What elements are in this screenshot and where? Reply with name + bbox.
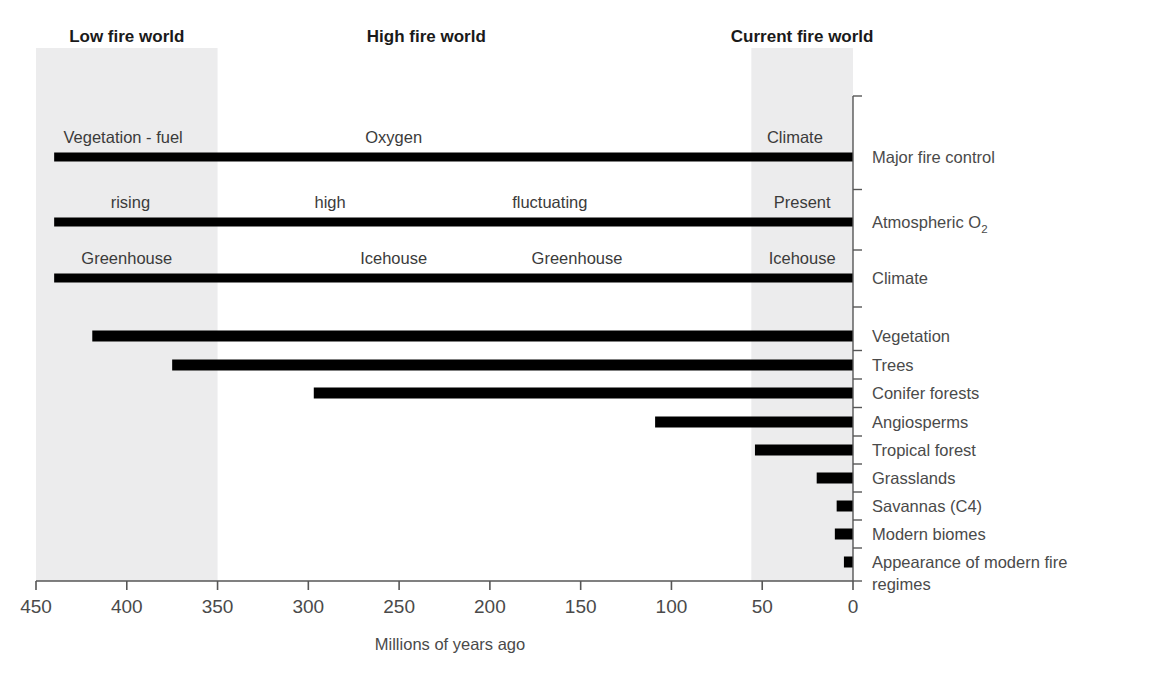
x-axis-tick-label: 250 xyxy=(383,596,415,617)
segment-label: rising xyxy=(111,193,150,211)
timeline-bar xyxy=(172,360,853,371)
timeline-bar xyxy=(755,445,853,456)
x-axis-title: Millions of years ago xyxy=(375,635,525,653)
timeline-bar xyxy=(314,388,853,399)
timeline-bar xyxy=(835,529,853,540)
row-label: Vegetation xyxy=(872,327,950,345)
era-header-0: Low fire world xyxy=(69,27,184,46)
row-label: Grasslands xyxy=(872,469,955,487)
row-label: Savannas (C4) xyxy=(872,497,982,515)
x-axis-tick-label: 350 xyxy=(202,596,234,617)
timeline-bar xyxy=(54,153,853,162)
timeline-bar xyxy=(54,218,853,227)
x-axis-tick-label: 0 xyxy=(848,596,859,617)
segment-label: Climate xyxy=(767,128,823,146)
row-label-subscript: 2 xyxy=(981,223,987,235)
timeline-bar xyxy=(92,331,853,342)
era-header-1: High fire world xyxy=(367,27,486,46)
row-label: Climate xyxy=(872,269,928,287)
segment-label: Icehouse xyxy=(360,249,427,267)
row-label: Tropical forest xyxy=(872,441,976,459)
row-label-continuation: regimes xyxy=(872,575,931,593)
segment-label: high xyxy=(315,193,346,211)
segment-label: Greenhouse xyxy=(532,249,623,267)
row-label: Modern biomes xyxy=(872,525,986,543)
x-axis-tick-label: 450 xyxy=(20,596,52,617)
row-label: Appearance of modern fire xyxy=(872,553,1067,571)
timeline-bar xyxy=(844,557,853,568)
segment-label: Icehouse xyxy=(769,249,836,267)
timeline-bar xyxy=(837,501,853,512)
x-axis-tick-label: 50 xyxy=(752,596,773,617)
row-label: Angiosperms xyxy=(872,413,968,431)
x-axis-tick-label: 150 xyxy=(565,596,597,617)
segment-label: Oxygen xyxy=(365,128,422,146)
timeline-bar xyxy=(817,473,853,484)
x-axis-tick-label: 100 xyxy=(656,596,688,617)
timeline-chart: Low fire worldHigh fire worldCurrent fir… xyxy=(0,0,1150,681)
x-axis-tick-label: 400 xyxy=(111,596,143,617)
fire-world-timeline-figure: Low fire worldHigh fire worldCurrent fir… xyxy=(0,0,1150,681)
segment-label: Vegetation - fuel xyxy=(64,128,183,146)
era-header-2: Current fire world xyxy=(731,27,874,46)
segment-label: Greenhouse xyxy=(81,249,172,267)
timeline-bar xyxy=(655,417,853,428)
segment-label: fluctuating xyxy=(512,193,587,211)
x-axis-tick-label: 200 xyxy=(474,596,506,617)
row-label: Trees xyxy=(872,356,914,374)
timeline-bar xyxy=(54,274,853,283)
segment-label: Present xyxy=(774,193,831,211)
x-axis-tick-label: 300 xyxy=(292,596,324,617)
row-label: Major fire control xyxy=(872,148,995,166)
row-label: Conifer forests xyxy=(872,384,979,402)
